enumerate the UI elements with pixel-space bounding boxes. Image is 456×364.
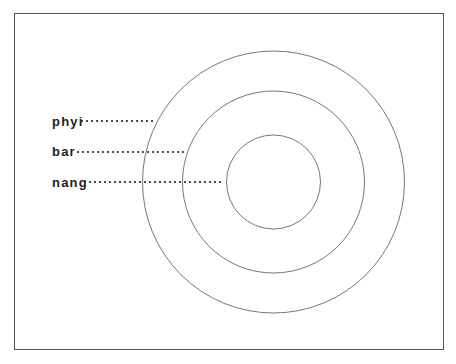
leader-dot <box>124 181 126 183</box>
leader-dot <box>99 181 101 183</box>
concentric-circles-diagram: phyi bar nang <box>0 0 456 364</box>
leader-dot <box>169 181 171 183</box>
leader-dot <box>136 120 138 122</box>
leader-dot <box>139 181 141 183</box>
leader-dot <box>94 181 96 183</box>
leader-dot <box>86 120 88 122</box>
leader-dot <box>89 181 91 183</box>
leader-dot <box>127 151 129 153</box>
leader-dot <box>149 181 151 183</box>
leader-dot <box>189 181 191 183</box>
circles-group <box>143 51 405 313</box>
leader-dot <box>117 151 119 153</box>
leader-dot <box>159 181 161 183</box>
leader-dot <box>116 120 118 122</box>
leader-dot <box>151 120 153 122</box>
label-bar: bar <box>52 144 76 159</box>
leader-dot <box>182 151 184 153</box>
leader-dot <box>147 151 149 153</box>
leader-dot <box>194 181 196 183</box>
leader-dot <box>146 120 148 122</box>
leader-dot <box>126 120 128 122</box>
leader-dot <box>112 151 114 153</box>
leader-dot <box>111 120 113 122</box>
leader-dot <box>214 181 216 183</box>
leader-dot <box>157 151 159 153</box>
leader-dot <box>174 181 176 183</box>
label-phyi: phyi <box>52 114 84 129</box>
leader-dot <box>82 151 84 153</box>
leader-dot <box>184 181 186 183</box>
leader-dot <box>144 181 146 183</box>
leader-dot <box>101 120 103 122</box>
leader-dot <box>162 151 164 153</box>
leader-dot <box>119 181 121 183</box>
leader-dot <box>209 181 211 183</box>
leader-dot <box>121 120 123 122</box>
leader-dot <box>91 120 93 122</box>
leader-dot <box>141 120 143 122</box>
leader-dot <box>134 181 136 183</box>
leader-dot <box>164 181 166 183</box>
leader-dot <box>96 120 98 122</box>
leader-dot <box>114 181 116 183</box>
circle-outer <box>143 51 405 313</box>
leader-dot <box>179 181 181 183</box>
leader-dot <box>87 151 89 153</box>
leader-dot <box>106 120 108 122</box>
leader-dot <box>132 151 134 153</box>
leader-dot <box>107 151 109 153</box>
leader-dot <box>77 151 79 153</box>
leader-dot <box>154 181 156 183</box>
leader-dot <box>177 151 179 153</box>
leader-dot <box>131 120 133 122</box>
leader-dot <box>142 151 144 153</box>
leader-dot <box>129 181 131 183</box>
leader-dot <box>109 181 111 183</box>
leader-dot <box>219 181 221 183</box>
leader-dot <box>137 151 139 153</box>
leader-dot <box>104 181 106 183</box>
leader-dot <box>204 181 206 183</box>
leader-dot <box>97 151 99 153</box>
leader-dot <box>102 151 104 153</box>
leader-dot <box>167 151 169 153</box>
leader-dot <box>92 151 94 153</box>
leader-dot <box>152 151 154 153</box>
label-nang: nang <box>52 175 88 190</box>
leader-dot <box>172 151 174 153</box>
circle-inner <box>227 135 321 229</box>
leader-dot <box>122 151 124 153</box>
leader-dot <box>199 181 201 183</box>
